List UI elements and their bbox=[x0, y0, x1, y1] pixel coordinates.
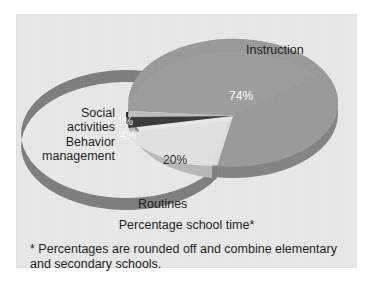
category-label-behavior-management-line1: Behavior bbox=[25, 136, 115, 150]
chart-footnote: * Percentages are rounded off and combin… bbox=[30, 242, 346, 272]
category-label-behavior-management: Behavior management bbox=[25, 136, 115, 163]
category-label-behavior-management-line2: management bbox=[25, 150, 115, 164]
slice-label-social-activities: 2% bbox=[117, 116, 133, 127]
category-label-routines: Routines bbox=[138, 198, 187, 212]
category-label-social-activities-line1: Social bbox=[35, 107, 115, 121]
category-label-social-activities-line2: activities bbox=[35, 121, 115, 135]
figure-panel: 74% 20% 4% 2% Instruction Routines Socia… bbox=[16, 14, 357, 268]
chart-caption: Percentage school time* bbox=[16, 218, 357, 232]
category-label-social-activities: Social activities bbox=[35, 107, 115, 134]
slice-label-behavior-management: 4% bbox=[120, 130, 136, 141]
slice-label-instruction: 74% bbox=[229, 90, 253, 102]
category-label-instruction: Instruction bbox=[246, 44, 304, 58]
figure-root: 74% 20% 4% 2% Instruction Routines Socia… bbox=[0, 0, 373, 283]
slice-label-routines: 20% bbox=[163, 154, 187, 166]
